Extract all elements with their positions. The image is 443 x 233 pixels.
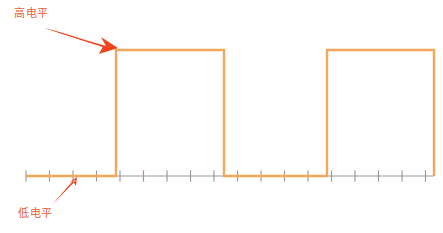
low-level-label: 低电平: [18, 207, 53, 220]
arrow-down-right-icon: [44, 28, 118, 54]
high-level-label: 高电平: [14, 7, 49, 20]
waveform-diagram: [0, 0, 443, 233]
signal-trace: [26, 50, 434, 176]
